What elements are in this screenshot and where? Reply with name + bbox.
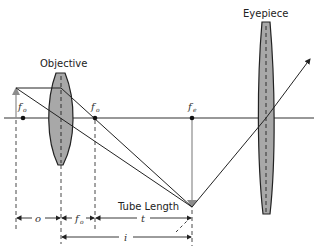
focal-point-objective-right xyxy=(93,116,98,121)
svg-text:e: e xyxy=(193,106,197,113)
focal-point-objective-left xyxy=(21,116,26,121)
dimension-i-label: i xyxy=(124,232,127,243)
focal-point-eyepiece xyxy=(190,116,195,121)
dimension-o-label: o xyxy=(35,213,41,224)
tube-length-label: Tube Length xyxy=(117,201,179,212)
microscope-diagram: Objective Eyepiece Tube Length f o f o f… xyxy=(0,0,314,248)
svg-text:o: o xyxy=(96,106,100,113)
dimension-fo-label: f o xyxy=(74,213,84,225)
svg-text:o: o xyxy=(80,218,84,225)
objective-lens xyxy=(49,73,73,165)
objective-label: Objective xyxy=(40,58,87,69)
eyepiece-label: Eyepiece xyxy=(243,8,288,19)
focal-label-objective-right: f o xyxy=(90,101,100,113)
focal-label-objective-left: f o xyxy=(17,101,27,113)
svg-text:o: o xyxy=(23,106,27,113)
dimension-t-label: t xyxy=(141,213,146,224)
image-arrow xyxy=(187,118,197,208)
focal-label-eyepiece: f e xyxy=(187,101,197,113)
diagonal-tick xyxy=(176,221,187,232)
